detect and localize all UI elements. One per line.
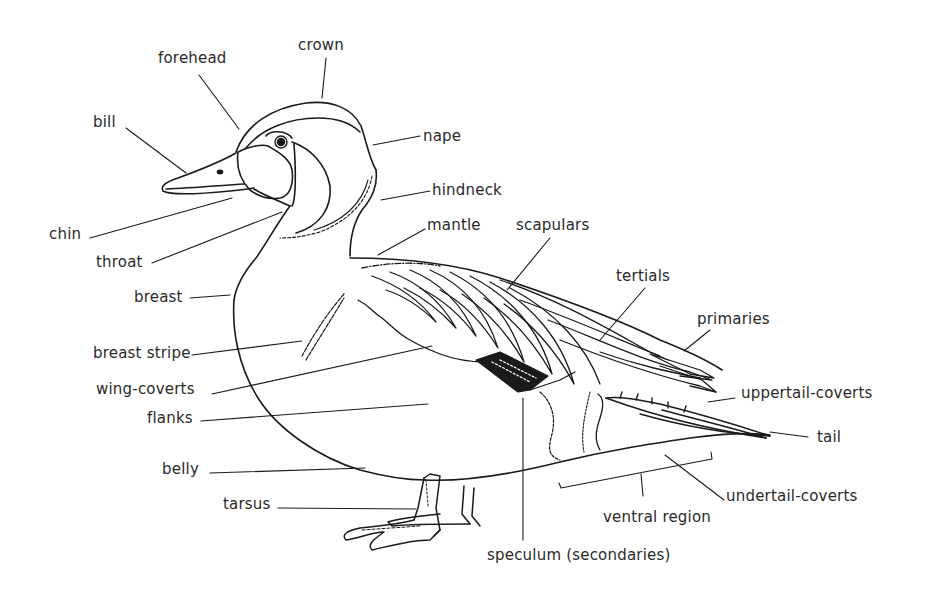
label-flanks: flanks	[147, 411, 193, 426]
label-tarsus: tarsus	[223, 497, 271, 512]
label-mantle: mantle	[427, 218, 481, 233]
leader-nape	[373, 136, 420, 145]
leader-hindneck	[381, 191, 430, 200]
leader-scapulars	[507, 238, 550, 290]
leader-chin	[90, 198, 232, 238]
label-ventral-region: ventral region	[603, 510, 711, 525]
label-forehead: forehead	[158, 51, 227, 66]
leader-crown	[322, 58, 326, 98]
label-uppertail-coverts: uppertail-coverts	[741, 386, 873, 401]
leader-tertials	[600, 288, 645, 340]
leader-forehead	[199, 75, 239, 129]
label-wing-coverts: wing-coverts	[96, 382, 195, 397]
leader-tail	[770, 432, 808, 437]
leader-bill	[126, 128, 186, 173]
leader-flanks	[201, 404, 428, 421]
label-bill: bill	[93, 115, 116, 130]
leader-undertail-coverts	[665, 455, 724, 500]
label-hindneck: hindneck	[432, 183, 502, 198]
leader-primaries	[684, 330, 710, 351]
label-belly: belly	[162, 462, 199, 477]
label-throat: throat	[96, 255, 143, 270]
label-scapulars: scapulars	[516, 218, 589, 233]
leader-breast-stripe	[192, 341, 302, 355]
leader-throat	[152, 212, 282, 263]
duck-legs	[344, 474, 480, 550]
label-crown: crown	[298, 38, 344, 53]
leader-tarsus	[278, 508, 416, 509]
label-breast: breast	[134, 290, 183, 305]
leader-uppertail-coverts	[708, 398, 735, 402]
label-speculum: speculum (secondaries)	[487, 548, 671, 563]
duck-head	[162, 102, 376, 300]
label-tail: tail	[817, 430, 841, 445]
label-chin: chin	[49, 227, 81, 242]
label-breast-stripe: breast stripe	[93, 346, 191, 361]
label-tertials: tertials	[616, 269, 670, 284]
label-primaries: primaries	[697, 312, 770, 327]
duck-anatomy-diagram: crown forehead bill nape hindneck chin m…	[0, 0, 926, 595]
label-nape: nape	[423, 129, 461, 144]
leader-mantle	[378, 229, 425, 255]
leader-breast	[190, 295, 230, 298]
label-undertail-coverts: undertail-coverts	[726, 489, 858, 504]
leader-belly	[210, 468, 365, 473]
